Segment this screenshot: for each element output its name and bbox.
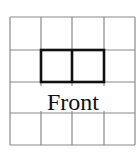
front-view-grid-diagram: Front (0, 0, 137, 156)
highlighted-cells (41, 50, 104, 82)
front-label: Front (47, 89, 99, 115)
